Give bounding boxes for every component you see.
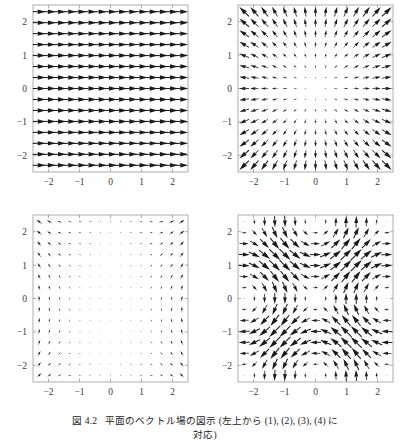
arrow-shaft [269, 249, 274, 254]
arrow-head [354, 282, 359, 290]
arrow-head [252, 241, 259, 246]
arrow-head [321, 351, 328, 356]
arrow-head [49, 329, 50, 332]
arrow-shaft [372, 45, 375, 47]
arrow-shaft [295, 130, 296, 132]
arrow-shaft [382, 56, 386, 58]
arrow-head [386, 287, 389, 289]
arrow-head [334, 164, 337, 170]
arrow-shaft [354, 289, 356, 293]
arrow-shaft [305, 160, 306, 164]
arrow-head [48, 264, 50, 267]
arrow-shaft [344, 109, 346, 110]
arrow-head [320, 340, 328, 345]
arrow-shaft [331, 245, 334, 248]
arrow-head [344, 370, 348, 377]
arrow-head [366, 87, 370, 89]
arrow-head [314, 253, 321, 257]
arrow-head [250, 130, 256, 135]
arrow-head [315, 121, 317, 124]
arrow-shaft [245, 130, 249, 132]
arrow-head [161, 308, 162, 310]
arrow-head [141, 243, 142, 244]
arrow-head [385, 130, 392, 135]
arrow-shaft [344, 78, 346, 79]
arrow-shaft [303, 230, 305, 232]
arrow-shaft [172, 343, 173, 344]
arrow-head [282, 307, 287, 315]
plot-panel-1-canvas: −2−1012−2−1012 [0, 0, 200, 210]
arrow-head [314, 242, 320, 245]
arrow-head [325, 110, 327, 112]
arrow-shaft [255, 161, 258, 165]
arrow-head [375, 109, 381, 112]
arrow-shaft [255, 318, 258, 320]
arrow-head [110, 375, 111, 376]
arrow-shaft [342, 245, 345, 249]
arrow-shaft [48, 365, 49, 366]
arrow-head [385, 264, 392, 268]
arrow-shaft [255, 99, 258, 100]
arrow-shaft [306, 99, 307, 100]
arrow-shaft [323, 233, 325, 235]
arrow-head [141, 309, 142, 310]
arrow-shaft [382, 78, 386, 79]
arrow-head [69, 297, 70, 298]
arrow-shaft [290, 261, 294, 264]
y-tick-label: −1 [222, 327, 232, 337]
arrow-head [252, 274, 258, 279]
arrow-head [335, 120, 338, 123]
arrow-shaft [363, 45, 366, 47]
arrow-shaft [352, 245, 355, 249]
arrow-shaft [285, 67, 287, 68]
arrow-head [80, 375, 81, 376]
arrow-shaft [325, 109, 326, 110]
arrow-head [180, 42, 188, 46]
arrow-head [250, 109, 256, 112]
arrow-head [372, 351, 379, 356]
arrow-head [239, 98, 245, 101]
arrow-shaft [382, 13, 386, 17]
arrow-shaft [306, 318, 309, 320]
x-tick-label: 0 [313, 177, 318, 187]
arrow-shaft [327, 343, 331, 345]
arrow-head [334, 18, 337, 24]
arrow-head [384, 30, 391, 36]
arrow-head [180, 20, 188, 24]
x-tick-label: 1 [344, 177, 349, 187]
arrow-shaft [296, 360, 298, 363]
arrow-head [38, 318, 40, 321]
arrow-head [49, 341, 51, 344]
arrow-shaft [325, 140, 326, 143]
x-tick-label: 2 [170, 177, 175, 187]
arrow-head [141, 232, 143, 233]
arrow-head [382, 319, 388, 322]
arrow-shaft [353, 56, 355, 58]
arrow-shaft [286, 304, 288, 308]
arrow-shaft [344, 150, 346, 153]
arrow-shaft [151, 277, 152, 278]
arrow-head [252, 252, 260, 257]
arrow-shaft [250, 241, 253, 243]
arrow-head [240, 319, 246, 322]
arrow-shaft [270, 271, 273, 275]
arrow-shaft [353, 99, 355, 100]
arrow-shaft [182, 343, 183, 345]
arrow-shaft [151, 343, 152, 344]
arrow-head [38, 351, 41, 354]
arrow-head [344, 163, 348, 170]
arrow-head [382, 352, 388, 355]
arrow-shaft [347, 343, 352, 348]
arrow-head [354, 18, 359, 24]
y-tick-label: −1 [17, 117, 27, 127]
arrow-shaft [286, 315, 289, 319]
arrow-shaft [160, 233, 161, 234]
arrow-head [181, 296, 183, 299]
arrow-head [294, 30, 297, 35]
arrow-head [303, 252, 311, 257]
arrow-shaft [378, 343, 382, 345]
arrow-head [334, 371, 337, 377]
arrow-shaft [275, 304, 277, 308]
arrow-head [171, 318, 172, 321]
arrow-shaft [337, 354, 340, 357]
